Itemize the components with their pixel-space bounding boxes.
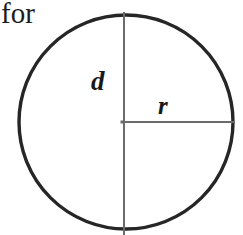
center-point-marker [121, 121, 125, 124]
figure-canvas: for d r [0, 0, 243, 235]
circle-diagram [0, 0, 243, 235]
diameter-label: d [91, 68, 105, 95]
radius-label: r [158, 93, 168, 118]
